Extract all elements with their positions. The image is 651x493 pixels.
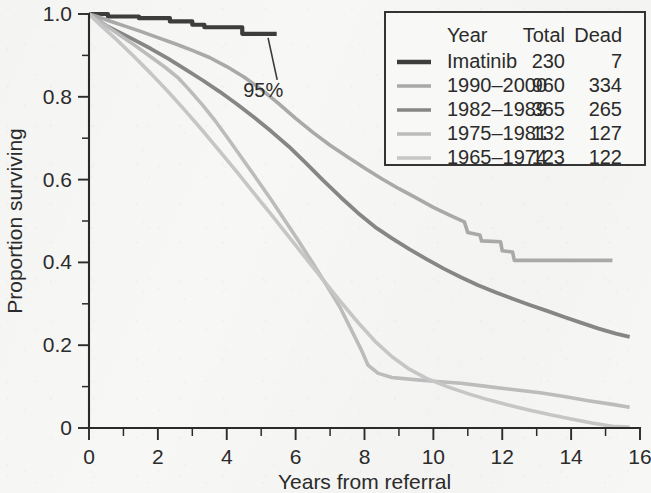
y-axis-title: Proportion surviving bbox=[3, 128, 26, 314]
legend-item-imatinib-label: Imatinib bbox=[447, 50, 517, 72]
annotation-leader-line bbox=[268, 38, 277, 80]
x-tick-label: 2 bbox=[152, 445, 164, 468]
x-tick-label: 0 bbox=[83, 445, 95, 468]
x-tick-label: 10 bbox=[422, 445, 445, 468]
x-tick-label: 4 bbox=[221, 445, 233, 468]
legend-item-1990-2000-total: 960 bbox=[532, 74, 565, 96]
x-tick-label: 12 bbox=[491, 445, 514, 468]
legend-item-1982-1989-dead: 265 bbox=[589, 98, 622, 120]
y-tick-label: 0.4 bbox=[43, 250, 73, 273]
x-tick-label: 16 bbox=[628, 445, 651, 468]
x-axis-title: Years from referral bbox=[278, 470, 451, 493]
chart-legend: YearTotalDeadImatinib23071990–2000960334… bbox=[385, 12, 645, 168]
legend-item-imatinib-dead: 7 bbox=[611, 50, 622, 72]
legend-item-imatinib-total: 230 bbox=[532, 50, 565, 72]
survival-curve-figure: 00.20.40.60.81.00246810121416Years from … bbox=[0, 0, 651, 493]
legend-item-1990-2000-dead: 334 bbox=[589, 74, 622, 96]
legend-item-1982-1989-total: 365 bbox=[532, 98, 565, 120]
legend-header-year: Year bbox=[447, 24, 488, 46]
annotations-layer: 95% bbox=[243, 38, 283, 101]
y-tick-label: 0.8 bbox=[43, 85, 72, 108]
legend-item-1965-1974-total: 123 bbox=[532, 146, 565, 168]
legend-header-total: Total bbox=[523, 24, 565, 46]
x-tick-label: 14 bbox=[559, 445, 583, 468]
plot-area: 00.20.40.60.81.00246810121416Years from … bbox=[0, 0, 651, 493]
y-tick-label: 0.6 bbox=[43, 168, 72, 191]
x-tick-label: 8 bbox=[359, 445, 371, 468]
legend-item-1975-1981-dead: 127 bbox=[589, 122, 622, 144]
legend-item-1965-1974-dead: 122 bbox=[589, 146, 622, 168]
annotation-label-95pct: 95% bbox=[243, 79, 283, 101]
y-tick-label: 0.2 bbox=[43, 333, 72, 356]
legend-header-dead: Dead bbox=[574, 24, 622, 46]
legend-item-1975-1981-total: 132 bbox=[532, 122, 565, 144]
x-tick-label: 6 bbox=[290, 445, 302, 468]
y-tick-label: 0 bbox=[60, 416, 72, 439]
y-tick-label: 1.0 bbox=[43, 2, 72, 25]
